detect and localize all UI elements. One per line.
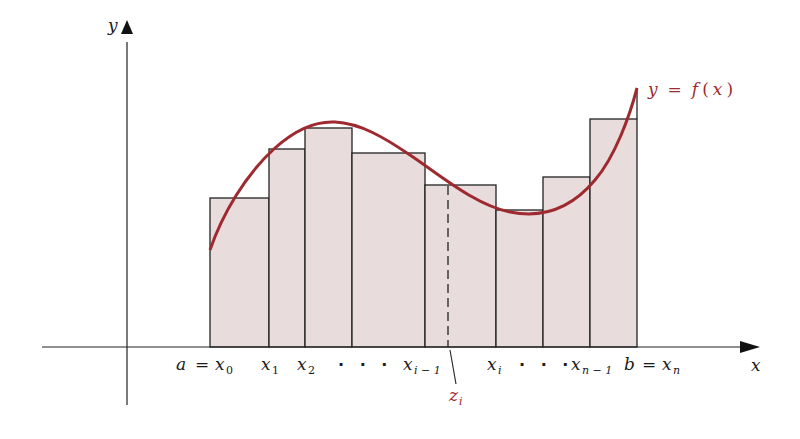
label-xn-minus-1: x <box>571 354 581 374</box>
ellipsis-1: · · · <box>338 355 392 374</box>
label-xn-minus-1-sub: n − 1 <box>582 364 612 377</box>
rectangle-2 <box>269 149 305 347</box>
label-xi-minus-1: x <box>403 354 413 374</box>
label-x1-sub: 1 <box>272 364 279 377</box>
rectangle-6 <box>496 210 543 347</box>
label-x0: x <box>215 354 225 374</box>
ellipsis-2: · · · <box>519 355 573 374</box>
x-axis-label: x <box>751 355 761 375</box>
riemann-sum-diagram: y x y = f ( x ) a = x 0 x 1 x 2 · · · x … <box>0 0 800 439</box>
label-xn: x <box>662 354 672 374</box>
sample-point-leader <box>450 350 456 384</box>
label-a-equals: = <box>195 354 209 374</box>
y-axis-label: y <box>107 15 118 35</box>
rectangle-i <box>425 185 496 347</box>
label-x1: x <box>261 354 271 374</box>
rectangle-1 <box>210 198 269 347</box>
rectangle-4 <box>352 153 425 347</box>
partition-labels: a = x 0 x 1 x 2 · · · x i − 1 x i · · · … <box>176 354 680 377</box>
label-xi: x <box>487 354 497 374</box>
curve-label: y = f ( x ) <box>647 79 733 99</box>
sample-point-label-sub: i <box>459 395 463 408</box>
label-x0-sub: 0 <box>226 364 233 377</box>
sample-point-label: z <box>448 385 459 405</box>
riemann-rectangles <box>210 119 637 347</box>
label-x2-sub: 2 <box>308 364 315 377</box>
label-b: b <box>624 354 635 374</box>
rectangle-7 <box>543 177 590 347</box>
rectangle-3 <box>305 128 352 347</box>
label-xn-sub: n <box>673 364 680 377</box>
label-a: a <box>176 354 186 374</box>
x-axis-arrow-icon <box>740 341 760 353</box>
label-x2: x <box>297 354 307 374</box>
label-xi-sub: i <box>498 364 502 377</box>
label-xi-minus-1-sub: i − 1 <box>414 364 441 377</box>
label-b-equals: = <box>642 354 656 374</box>
y-axis-arrow-icon <box>121 20 133 34</box>
